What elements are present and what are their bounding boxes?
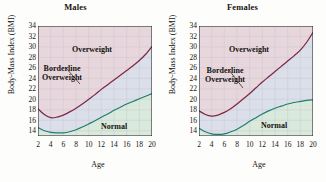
y-tick: 24 [29, 75, 37, 83]
y-tick: 18 [190, 106, 198, 114]
y-tick: 18 [29, 106, 37, 114]
y-tick: 28 [29, 54, 37, 62]
y-tick: 34 [190, 22, 198, 30]
y-tick: 24 [190, 75, 198, 83]
panel-title-females: Females [161, 2, 324, 12]
y-tick: 28 [190, 54, 198, 62]
y-tick: 26 [29, 64, 37, 72]
borderline-line-1: Borderline [205, 66, 245, 75]
borderline-line-2: Overweight [205, 75, 245, 84]
borderline-line-2: Overweight [42, 73, 82, 82]
y-axis-ticks-males: 34 32 30 28 26 24 22 20 18 16 14 [18, 26, 36, 136]
y-tick: 32 [190, 33, 198, 41]
region-label-overweight-males: Overweight [72, 45, 112, 55]
x-axis-label-males: Age [38, 160, 158, 169]
panel-title-males: Males [0, 2, 157, 12]
region-label-normal-females: Normal [261, 121, 287, 131]
y-tick: 14 [190, 127, 198, 135]
region-label-overweight-females: Overweight [229, 45, 269, 55]
x-tick: 20 [145, 140, 159, 149]
y-tick: 30 [29, 43, 37, 51]
bmi-age-figure: Males Body-Mass Index (BMI) 34 32 30 28 … [0, 0, 326, 182]
y-tick: 34 [29, 22, 37, 30]
y-tick: 22 [29, 85, 37, 93]
y-tick: 16 [190, 117, 198, 125]
panel-females: Females Body-Mass Index (BMI) 34 32 30 2… [163, 0, 326, 182]
x-axis-label-females: Age [199, 160, 319, 169]
borderline-line-1: Borderline [42, 64, 82, 73]
y-tick: 16 [29, 117, 37, 125]
y-tick: 22 [190, 85, 198, 93]
y-tick: 32 [29, 33, 37, 41]
y-axis-ticks-females: 34 32 30 28 26 24 22 20 18 16 14 [179, 26, 197, 136]
x-axis-ticks-females: 2 4 6 8 10 12 14 16 18 20 [199, 140, 313, 152]
x-tick: 20 [306, 140, 320, 149]
y-tick: 30 [190, 43, 198, 51]
panel-males: Males Body-Mass Index (BMI) 34 32 30 28 … [0, 0, 163, 182]
x-axis-ticks-males: 2 4 6 8 10 12 14 16 18 20 [38, 140, 152, 152]
region-label-borderline-females: Borderline Overweight [205, 66, 245, 84]
region-label-borderline-males: Borderline Overweight [42, 64, 82, 82]
region-label-normal-males: Normal [101, 122, 127, 132]
y-tick: 20 [29, 96, 37, 104]
y-tick: 26 [190, 64, 198, 72]
y-tick: 20 [190, 96, 198, 104]
y-axis-label: Body-Mass Index (BMI) [7, 0, 16, 110]
y-tick: 14 [29, 127, 37, 135]
y-axis-label-females: Body-Mass Index (BMI) [168, 0, 177, 110]
